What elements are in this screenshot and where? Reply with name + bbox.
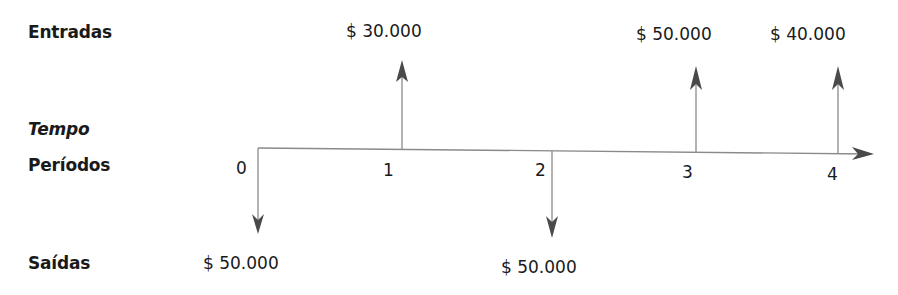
period-1: 1 xyxy=(383,160,394,180)
period-3: 3 xyxy=(682,162,693,182)
outflow-amount-2: $ 50.000 xyxy=(501,257,577,277)
period-4: 4 xyxy=(827,164,838,184)
inflow-amount-3: $ 50.000 xyxy=(636,24,712,44)
period-0: 0 xyxy=(236,158,247,178)
period-2: 2 xyxy=(535,160,546,180)
inflow-amount-4: $ 40.000 xyxy=(770,24,846,44)
timeline-graphic xyxy=(0,0,898,295)
inflow-amount-1: $ 30.000 xyxy=(346,21,422,41)
time-axis xyxy=(258,148,866,154)
outflow-amount-0: $ 50.000 xyxy=(203,253,279,273)
cash-flow-diagram: Entradas Tempo Períodos Saídas 0 1 2 3 4… xyxy=(0,0,898,295)
